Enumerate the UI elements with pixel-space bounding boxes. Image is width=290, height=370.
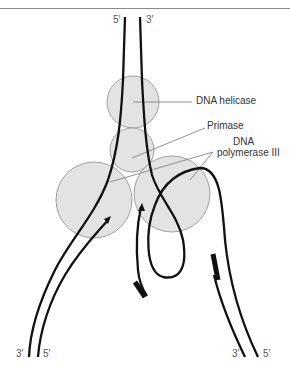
label-primase: Primase — [207, 120, 244, 132]
label-dna-helicase: DNA helicase — [196, 95, 256, 107]
end-label-bottom-right-3prime: 3′ — [232, 348, 239, 360]
end-label-top-5prime: 5′ — [113, 14, 120, 26]
fork-graphic — [0, 0, 290, 370]
end-label-bottom-left-3prime: 3′ — [16, 348, 23, 360]
end-label-top-3prime: 3′ — [146, 14, 153, 26]
replication-fork-diagram: DNA helicase Primase DNA polymerase III … — [0, 0, 290, 370]
polymerase-left-circle — [56, 162, 132, 238]
end-label-bottom-left-5prime: 5′ — [43, 348, 50, 360]
label-polymerase-line2: polymerase III — [217, 147, 280, 159]
end-label-bottom-right-5prime: 5′ — [263, 348, 270, 360]
